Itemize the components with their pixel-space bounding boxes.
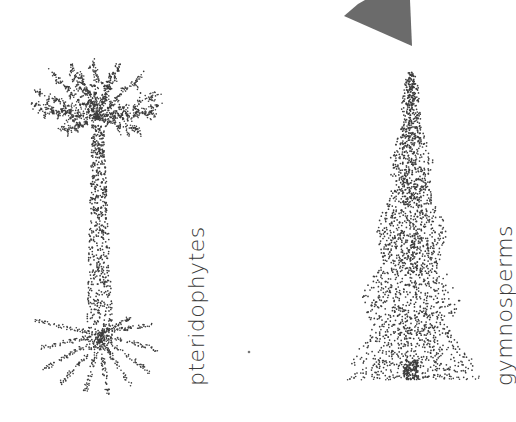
pteridophytes-label: pteridophytes bbox=[186, 226, 208, 386]
pteridophyte-tree-illustration bbox=[31, 58, 163, 395]
stray-dot bbox=[248, 351, 251, 354]
arrow-pointer-shape bbox=[344, 0, 412, 46]
stipple-artwork bbox=[0, 0, 516, 422]
gymnosperm-tree-illustration bbox=[347, 71, 480, 380]
illustration-canvas: pteridophytes gymnosperms bbox=[0, 0, 516, 422]
gymnosperms-label: gymnosperms bbox=[494, 225, 516, 386]
